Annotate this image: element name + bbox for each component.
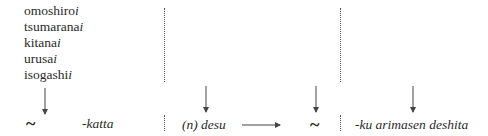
past-affirmative-suffix: -katta	[82, 116, 114, 132]
arrows-layer	[0, 0, 488, 136]
noun-desu-form: (n) desu	[182, 117, 226, 133]
tilde-symbol-1: ~	[26, 116, 35, 132]
tilde-symbol-2: ~	[310, 117, 319, 133]
past-negative-suffix: -ku arimasen deshita	[355, 117, 468, 133]
